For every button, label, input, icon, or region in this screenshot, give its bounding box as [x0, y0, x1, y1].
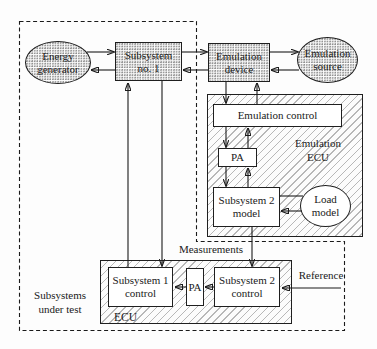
emulation-device-node: Emulation device [208, 43, 270, 82]
subsystem2-control-label: Subsystem 2 control [215, 274, 279, 300]
subsystems-under-test-label: Subsystems under test [28, 289, 92, 317]
load-model-label: Load model [301, 193, 350, 219]
subsystem2-control-node: Subsystem 2 control [214, 267, 280, 307]
pa-top-label: PA [230, 151, 245, 164]
pa-bottom-label: PA [187, 281, 202, 294]
ecu-label: ECU [114, 310, 154, 324]
emulation-control-node: Emulation control [213, 104, 342, 127]
emulation-device-label: Emulation device [209, 50, 269, 76]
measurements-label: Measurements [163, 243, 259, 257]
energy-generator-label: Energy generator [26, 50, 90, 76]
subsystem1-node: Subsystem no. 1 [115, 42, 182, 81]
subsystem1-control-node: Subsystem 1 control [108, 267, 173, 307]
subsystem2-model-node: Subsystem 2 model [213, 187, 280, 227]
emulation-source-label: Emulation source [298, 47, 357, 73]
load-model-node: Load model [300, 185, 351, 227]
emulation-control-label: Emulation control [237, 109, 319, 122]
pa-bottom-node: PA [186, 268, 204, 306]
reference-label: Reference [294, 269, 348, 283]
diagram-canvas: Energy generator Subsystem no. 1 Emulati… [0, 0, 377, 349]
subsystem1-control-label: Subsystem 1 control [109, 274, 172, 300]
energy-generator-node: Energy generator [25, 41, 91, 84]
emulation-source-node: Emulation source [297, 37, 358, 83]
subsystem1-label: Subsystem no. 1 [116, 49, 181, 75]
pa-top-node: PA [218, 148, 257, 167]
emulation-ecu-label: Emulation ECU [287, 137, 349, 165]
subsystem2-model-label: Subsystem 2 model [214, 194, 279, 220]
